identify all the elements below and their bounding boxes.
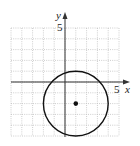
center-point	[74, 101, 79, 106]
x-axis-label: x	[124, 83, 130, 95]
x-axis	[11, 80, 130, 85]
y-tick-5: 5	[57, 21, 63, 33]
y-axis-arrow-icon	[63, 12, 68, 19]
coordinate-plane: y 5 5 x	[0, 0, 140, 146]
x-tick-5: 5	[114, 83, 120, 95]
y-axis	[63, 12, 68, 137]
y-axis-label: y	[55, 9, 61, 21]
